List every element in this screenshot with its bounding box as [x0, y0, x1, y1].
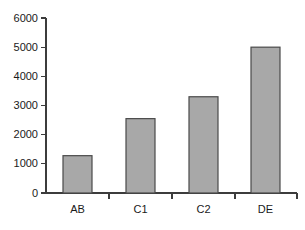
bar-c1 — [126, 119, 155, 193]
y-tick-label-1000: 1000 — [14, 157, 38, 169]
x-tick-label-c2: C2 — [196, 203, 210, 215]
x-tick-label-ab: AB — [70, 203, 85, 215]
x-tick-label-de: DE — [258, 203, 273, 215]
bar-ab — [63, 156, 92, 193]
bar-chart: 0 1000 2000 3000 4000 5000 6000 AB C1 C2 — [0, 0, 305, 230]
bar-de — [251, 47, 280, 193]
y-tick-label-6000: 6000 — [14, 12, 38, 24]
chart-canvas: 0 1000 2000 3000 4000 5000 6000 AB C1 C2 — [0, 0, 305, 230]
x-tick-label-c1: C1 — [133, 203, 147, 215]
y-tick-label-5000: 5000 — [14, 41, 38, 53]
bar-c2 — [189, 97, 218, 193]
y-tick-label-0: 0 — [32, 187, 38, 199]
y-tick-label-3000: 3000 — [14, 99, 38, 111]
y-tick-label-4000: 4000 — [14, 70, 38, 82]
y-tick-label-2000: 2000 — [14, 128, 38, 140]
